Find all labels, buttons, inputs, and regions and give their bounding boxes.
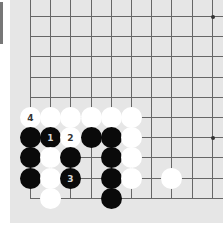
star-point: [211, 15, 215, 19]
black-stone[interactable]: [101, 147, 122, 168]
black-stone[interactable]: 1: [40, 127, 61, 148]
white-stone[interactable]: 2: [60, 127, 81, 148]
grid-line-vertical: [91, 0, 92, 199]
white-stone[interactable]: [40, 107, 61, 128]
grid-line-horizontal: [30, 97, 223, 98]
white-stone[interactable]: [101, 107, 122, 128]
grid-line-horizontal: [30, 77, 223, 78]
black-stone[interactable]: [101, 168, 122, 189]
black-stone[interactable]: [101, 127, 122, 148]
black-stone[interactable]: [81, 127, 102, 148]
white-stone[interactable]: [161, 168, 182, 189]
white-stone[interactable]: [121, 168, 142, 189]
side-scroll-indicator: [0, 2, 3, 44]
white-stone[interactable]: [40, 168, 61, 189]
white-stone[interactable]: 4: [20, 107, 41, 128]
grid-line-horizontal: [30, 36, 223, 37]
grid-line-horizontal: [30, 16, 223, 17]
white-stone[interactable]: [40, 147, 61, 168]
white-stone[interactable]: [121, 107, 142, 128]
white-stone[interactable]: [60, 107, 81, 128]
black-stone[interactable]: [20, 127, 41, 148]
white-stone[interactable]: [81, 107, 102, 128]
go-board[interactable]: 4123: [10, 0, 223, 223]
star-point: [211, 136, 215, 140]
grid-line-horizontal: [30, 56, 223, 57]
black-stone[interactable]: [20, 168, 41, 189]
white-stone[interactable]: [121, 147, 142, 168]
grid-line-vertical: [151, 0, 152, 199]
black-stone[interactable]: [20, 147, 41, 168]
black-stone[interactable]: [101, 188, 122, 209]
grid-line-vertical: [192, 0, 193, 199]
white-stone[interactable]: [40, 188, 61, 209]
grid-line-vertical: [212, 0, 213, 199]
black-stone[interactable]: 3: [60, 168, 81, 189]
white-stone[interactable]: [121, 127, 142, 148]
black-stone[interactable]: [60, 147, 81, 168]
